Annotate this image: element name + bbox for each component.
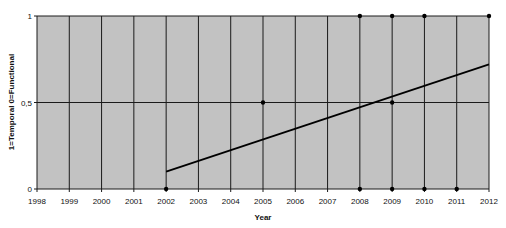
chart: 1998199920002001200220032004200520062007… [0, 0, 506, 228]
x-tick-label: 2008 [351, 197, 369, 206]
y-axis-ticks: 00,51 [21, 12, 33, 194]
x-tick-label: 1999 [60, 197, 78, 206]
x-tick-label: 2004 [222, 197, 240, 206]
data-point [422, 187, 426, 191]
x-tick-label: 2005 [254, 197, 272, 206]
x-tick-label: 2002 [157, 197, 175, 206]
x-tick-label: 2007 [319, 197, 337, 206]
x-tick-label: 2003 [190, 197, 208, 206]
data-point [390, 14, 394, 18]
x-tick-label: 1998 [28, 197, 46, 206]
data-point [455, 187, 459, 191]
y-tick-label: 0,5 [21, 99, 33, 108]
x-tick-label: 2012 [480, 197, 498, 206]
x-tick-label: 2010 [416, 197, 434, 206]
y-tick-label: 0 [28, 185, 33, 194]
y-tick-label: 1 [28, 12, 33, 21]
y-axis-title: 1=Temporal 0=Functional [7, 54, 16, 150]
data-point [390, 187, 394, 191]
data-point [261, 100, 265, 104]
x-tick-label: 2011 [448, 197, 466, 206]
x-tick-label: 2001 [125, 197, 143, 206]
data-point [422, 14, 426, 18]
data-point [164, 187, 168, 191]
x-axis-ticks: 1998199920002001200220032004200520062007… [28, 197, 498, 206]
x-axis-title: Year [255, 213, 272, 222]
data-point [390, 100, 394, 104]
data-point [358, 187, 362, 191]
x-tick-label: 2006 [286, 197, 304, 206]
data-point [487, 14, 491, 18]
x-tick-label: 2000 [93, 197, 111, 206]
x-tick-label: 2009 [383, 197, 401, 206]
data-point [358, 14, 362, 18]
